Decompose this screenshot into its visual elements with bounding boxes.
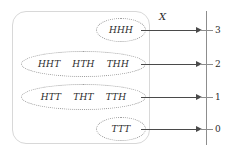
event-ellipse-one-head: HTT THT TTH [21, 84, 146, 110]
event-ellipse-two-heads: HHT HTH THH [21, 51, 146, 77]
event-ellipse-zero-heads: TTT [96, 117, 146, 141]
outcome-label: HTH [72, 59, 94, 69]
outcome-group-two-heads: HHT HTH THH [32, 59, 135, 69]
axis-tick-label-3: 3 [215, 25, 221, 35]
real-number-line [206, 11, 207, 145]
event-ellipse-three-heads: HHH [96, 18, 146, 42]
axis-tick-3 [200, 30, 213, 31]
outcome-label: HHT [38, 59, 60, 69]
axis-tick-0 [200, 129, 213, 130]
axis-tick-2 [200, 64, 213, 65]
outcome-group-zero-heads: TTT [112, 124, 131, 134]
mapping-arrow-one-head [141, 97, 201, 98]
axis-tick-label-2: 2 [215, 59, 221, 69]
outcome-label: TTT [112, 124, 131, 134]
outcome-label: THT [73, 92, 93, 102]
outcome-label: HHH [109, 25, 133, 35]
outcome-group-one-head: HTT THT TTH [35, 92, 133, 102]
outcome-label: TTH [106, 92, 127, 102]
outcome-label: HTT [41, 92, 62, 102]
random-variable-label: X [159, 11, 166, 22]
mapping-arrow-three-heads [141, 30, 201, 31]
random-variable-diagram: HHH HHT HTH THH HTT THT TTH TTT X 3 2 1 [0, 0, 228, 156]
axis-tick-1 [200, 97, 213, 98]
outcome-group-three-heads: HHH [109, 25, 133, 35]
mapping-arrow-zero-heads [141, 129, 201, 130]
outcome-label: THH [107, 59, 129, 69]
axis-tick-label-0: 0 [215, 124, 221, 134]
mapping-arrow-two-heads [141, 64, 201, 65]
axis-tick-label-1: 1 [215, 92, 221, 102]
